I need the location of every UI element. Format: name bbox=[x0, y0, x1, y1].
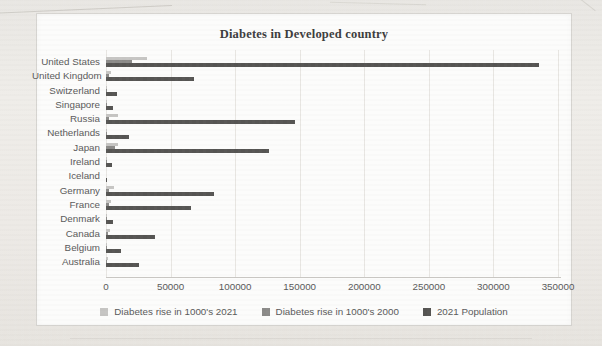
bar-group bbox=[106, 126, 561, 140]
x-tick-label: 250000 bbox=[412, 281, 445, 292]
bar-series-2 bbox=[106, 92, 117, 96]
bar-series-2 bbox=[106, 263, 139, 267]
y-axis-labels: United StatesUnited KingdomSwitzerlandSi… bbox=[32, 55, 100, 269]
x-tick-label: 200000 bbox=[348, 281, 381, 292]
scan-artifact bbox=[70, 338, 532, 339]
x-tick-label: 50000 bbox=[157, 281, 184, 292]
legend-item: 2021 Population bbox=[423, 306, 508, 317]
bar-series-2 bbox=[106, 120, 295, 124]
y-axis-label: Singapore bbox=[32, 98, 100, 112]
bar-series-2 bbox=[106, 135, 129, 139]
chart-frame: Diabetes in Developed country United Sta… bbox=[36, 13, 572, 326]
bar-group bbox=[106, 184, 561, 198]
bar-series-2 bbox=[106, 235, 155, 239]
y-axis-label: Belgium bbox=[32, 241, 100, 255]
scan-artifact bbox=[576, 0, 596, 11]
bar-series-2 bbox=[106, 163, 112, 167]
legend-label: Diabetes rise in 1000's 2021 bbox=[114, 306, 237, 317]
bar-group bbox=[106, 55, 561, 69]
plot-area: United StatesUnited KingdomSwitzerlandSi… bbox=[106, 50, 561, 278]
bar-group bbox=[106, 141, 561, 155]
bar-group bbox=[106, 84, 561, 98]
y-axis-label: Switzerland bbox=[32, 84, 100, 98]
y-axis-label: Germany bbox=[32, 184, 100, 198]
y-axis-label: Iceland bbox=[32, 169, 100, 183]
bar-group bbox=[106, 98, 561, 112]
x-tick-label: 100000 bbox=[219, 281, 252, 292]
legend-marker-icon bbox=[423, 308, 431, 316]
legend-marker-icon bbox=[100, 308, 108, 316]
legend-label: Diabetes rise in 1000's 2000 bbox=[276, 306, 399, 317]
x-tick-label: 300000 bbox=[477, 281, 510, 292]
bar-series-2 bbox=[106, 106, 113, 110]
bar-series-2 bbox=[106, 77, 194, 81]
y-axis-label: United States bbox=[32, 55, 100, 69]
x-tick-label: 350000 bbox=[542, 281, 575, 292]
x-tick-label: 0 bbox=[103, 281, 108, 292]
bar-series-2 bbox=[106, 249, 121, 253]
bar-group bbox=[106, 255, 561, 269]
y-axis-label: Ireland bbox=[32, 155, 100, 169]
legend-item: Diabetes rise in 1000's 2021 bbox=[100, 306, 237, 317]
bar-series-2 bbox=[106, 220, 113, 224]
y-axis-label: United Kingdom bbox=[32, 69, 100, 83]
bar-group bbox=[106, 155, 561, 169]
legend-item: Diabetes rise in 1000's 2000 bbox=[262, 306, 399, 317]
y-axis-label: Russia bbox=[32, 112, 100, 126]
bar-series-2 bbox=[106, 192, 214, 196]
bar-series-2 bbox=[106, 206, 191, 210]
bar-group bbox=[106, 241, 561, 255]
y-axis-label: Denmark bbox=[32, 212, 100, 226]
y-axis-label: Netherlands bbox=[32, 126, 100, 140]
bar-group bbox=[106, 212, 561, 226]
bar-group bbox=[106, 198, 561, 212]
y-axis-label: France bbox=[32, 198, 100, 212]
bar-group bbox=[106, 112, 561, 126]
scan-artifact bbox=[330, 2, 426, 6]
legend-marker-icon bbox=[262, 308, 270, 316]
legend: Diabetes rise in 1000's 2021Diabetes ris… bbox=[37, 306, 571, 317]
bar-series-2 bbox=[106, 149, 269, 153]
y-axis-label: Canada bbox=[32, 227, 100, 241]
bar-group bbox=[106, 169, 561, 183]
bar-series-2 bbox=[106, 63, 539, 67]
legend-label: 2021 Population bbox=[437, 306, 508, 317]
chart-title: Diabetes in Developed country bbox=[37, 27, 571, 42]
bar-rows bbox=[106, 55, 561, 269]
y-axis-label: Japan bbox=[32, 141, 100, 155]
y-axis-label: Australia bbox=[32, 255, 100, 269]
bar-group bbox=[106, 69, 561, 83]
x-tick-label: 150000 bbox=[283, 281, 316, 292]
bar-group bbox=[106, 227, 561, 241]
